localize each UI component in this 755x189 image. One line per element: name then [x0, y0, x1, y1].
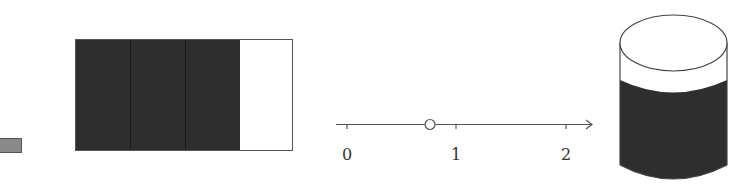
tick-label-0: 0 [342, 145, 352, 164]
shaded-part-3 [185, 40, 240, 150]
tick-label-1: 1 [451, 145, 461, 164]
cylinder-top [620, 15, 727, 71]
fraction-rectangle [75, 39, 293, 151]
shaded-part-1 [76, 40, 130, 150]
cylinder-container [615, 5, 735, 187]
liquid-fill [620, 80, 727, 179]
unshaded-part-4 [240, 40, 292, 150]
open-point-marker [425, 120, 435, 130]
number-line [330, 110, 600, 140]
shaded-part-2 [130, 40, 185, 150]
tick-label-2: 2 [561, 145, 571, 164]
small-gray-bar [0, 138, 22, 153]
